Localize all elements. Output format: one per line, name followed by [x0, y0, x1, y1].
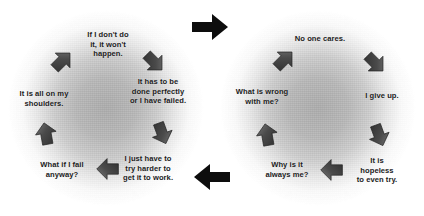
cycle-label: I just have to try harder to get it to w…: [123, 154, 173, 183]
cycle-label: No one cares.: [295, 34, 345, 44]
connector-arrow-left-icon: [192, 162, 232, 192]
cycle-label: What is wrong with me?: [236, 87, 289, 106]
cycle-label: Why is it always me?: [265, 160, 308, 179]
cycle-label: What if I fail anyway?: [40, 160, 83, 179]
diagram-canvas: If I don't do it, it won't happen.It has…: [0, 0, 424, 216]
cycle-label: It is hopeless to even try.: [354, 156, 401, 185]
cycle-label: It is all on my shoulders.: [20, 89, 69, 108]
cycle-label: It has to be done perfectly or I have fa…: [130, 77, 186, 106]
cycle-label: I give up.: [365, 91, 398, 101]
cycle-label: If I don't do it, it won't happen.: [87, 30, 128, 59]
cycle-arrow-left-icon: [319, 157, 345, 183]
cycle-arrow-left-icon: [95, 156, 121, 182]
connector-arrow-right-icon: [190, 12, 230, 42]
cycle-arrow-up-icon: [252, 120, 282, 150]
cycle-arrow-up-icon: [31, 119, 61, 149]
